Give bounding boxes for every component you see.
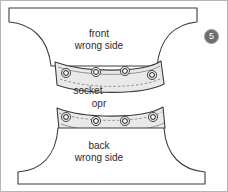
label-front: front wrong side — [0, 28, 198, 52]
socket-eyelet — [120, 66, 129, 75]
illustration-canvas: front wrong side socket opr back wrong s… — [0, 0, 228, 192]
opr-eyelet — [61, 112, 70, 121]
label-front-line2: wrong side — [0, 40, 198, 52]
opr-eyelet — [120, 116, 129, 125]
step-number-badge: 5 — [204, 29, 219, 44]
label-front-line1: front — [0, 28, 198, 40]
opr-eyelet — [148, 112, 157, 121]
label-back: back wrong side — [0, 140, 198, 164]
label-back-line1: back — [0, 140, 198, 152]
socket-eyelet — [61, 68, 70, 77]
socket-eyelet — [147, 70, 156, 79]
label-socket: socket — [0, 85, 176, 97]
opr-eyelet — [91, 116, 100, 125]
label-back-line2: wrong side — [0, 152, 198, 164]
label-opr: opr — [0, 98, 198, 110]
socket-eyelet — [91, 67, 100, 76]
